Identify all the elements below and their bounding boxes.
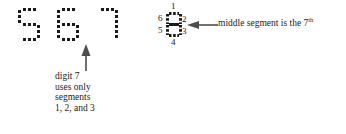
digit5-segment-bottom [23, 38, 37, 41]
map-segment-upper-left [166, 14, 169, 24]
caption-line-3: segments [55, 92, 95, 103]
seven-segment-figure: digit 7 uses only segments 1, 2, and 3 1… [0, 0, 346, 134]
digit5-segment-lower-right [37, 25, 40, 39]
segment-number-1-label: 1 [171, 2, 176, 11]
digit6-segment-top [62, 8, 76, 11]
seven-segment-digit-7 [96, 8, 122, 42]
seven-segment-digit-6 [57, 8, 83, 42]
arrow-up-icon [79, 44, 93, 72]
caption-line-4: 1, 2, and 3 [55, 103, 95, 114]
digit7-segment-lower-right [115, 25, 118, 39]
digit6-segment-bottom [62, 38, 76, 41]
seven-segment-digit-5 [18, 8, 44, 42]
digit5-segment-upper-left [18, 10, 21, 24]
segment-number-5-label: 5 [158, 26, 163, 35]
segment-number-6-label: 6 [158, 14, 163, 23]
digit7-segment-upper-right [115, 10, 118, 24]
map-segment-middle [169, 23, 179, 26]
arrow-left-icon [187, 19, 219, 31]
caption-line-2: uses only [55, 82, 95, 93]
digit7-segment-top [101, 8, 115, 11]
digit6-segment-upper-left [57, 10, 60, 24]
digit5-segment-middle [23, 23, 37, 26]
digit6-segment-lower-left [57, 25, 60, 39]
map-segment-lower-left [166, 25, 169, 35]
right-note-ordinal: th [308, 16, 313, 23]
right-note-text: middle segment is the 7 [218, 18, 308, 28]
caption-line-1: digit 7 [55, 71, 95, 82]
right-note: middle segment is the 7th [218, 18, 313, 29]
digit5-segment-top [23, 8, 37, 11]
segment-number-2-label: 2 [182, 15, 187, 24]
digit6-segment-lower-right [76, 25, 79, 39]
left-caption: digit 7 uses only segments 1, 2, and 3 [55, 71, 95, 113]
map-segment-top [169, 12, 179, 15]
segment-number-4-label: 4 [171, 38, 176, 47]
digit6-segment-middle [62, 23, 76, 26]
segment-number-3-label: 3 [182, 27, 187, 36]
